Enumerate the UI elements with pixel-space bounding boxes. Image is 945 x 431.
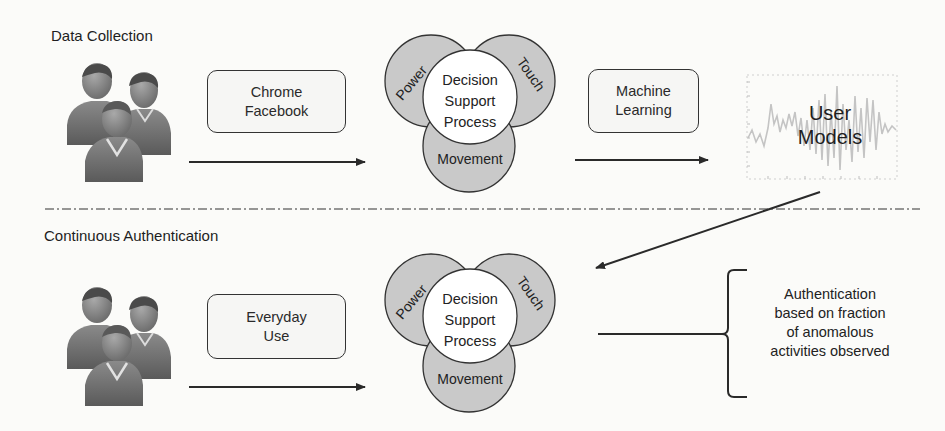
outcome-line1: Authentication bbox=[730, 285, 930, 304]
venn-label-movement: Movement bbox=[437, 371, 502, 387]
outcome-line4: activities observed bbox=[730, 342, 930, 361]
user-models-line2: Models bbox=[775, 125, 885, 149]
user-group-icon bbox=[67, 63, 171, 182]
input-source-line1: Chrome bbox=[251, 83, 303, 102]
everyday-use-line2: Use bbox=[264, 327, 290, 346]
authentication-outcome-text: Authentication based on fraction of anom… bbox=[730, 285, 930, 361]
machine-learning-box: Machine Learning bbox=[588, 69, 699, 133]
user-group-icon bbox=[67, 287, 171, 406]
arrow-models-to-auth-dsp bbox=[596, 192, 820, 268]
venn-diagram-bottom: Power Touch Movement Decision Support Pr… bbox=[385, 254, 555, 412]
venn-center-line2: Support bbox=[445, 312, 496, 328]
venn-diagram-top: Power Touch Movement Decision Support Pr… bbox=[385, 35, 555, 192]
venn-center-line2: Support bbox=[445, 93, 496, 109]
machine-learning-line1: Machine bbox=[616, 82, 671, 101]
section-title-continuous-authentication: Continuous Authentication bbox=[44, 227, 218, 244]
outcome-line2: based on fraction bbox=[730, 304, 930, 323]
venn-center-line1: Decision bbox=[442, 72, 498, 88]
venn-center-line3: Process bbox=[444, 333, 496, 349]
venn-center-line1: Decision bbox=[442, 291, 498, 307]
machine-learning-line2: Learning bbox=[615, 101, 671, 120]
diagram-canvas: Power Touch Movement Decision Support Pr… bbox=[0, 0, 945, 431]
user-models-label: User Models bbox=[775, 101, 885, 149]
outcome-line3: of anomalous bbox=[730, 323, 930, 342]
everyday-use-line1: Everyday bbox=[246, 308, 306, 327]
everyday-use-box: Everyday Use bbox=[207, 294, 346, 359]
venn-label-movement: Movement bbox=[437, 151, 502, 167]
venn-center-line3: Process bbox=[444, 114, 496, 130]
input-source-line2: Facebook bbox=[245, 102, 309, 121]
user-models-line1: User bbox=[775, 101, 885, 125]
section-title-data-collection: Data Collection bbox=[51, 27, 153, 44]
input-source-box: Chrome Facebook bbox=[207, 70, 346, 133]
